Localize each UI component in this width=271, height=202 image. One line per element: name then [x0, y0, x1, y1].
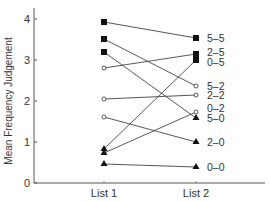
line-0-2: [104, 112, 196, 153]
y-tick-2: 2: [24, 95, 30, 107]
series-lines: [104, 22, 196, 167]
triangle-marker: [101, 160, 108, 166]
line-2-2: [104, 95, 196, 99]
chart: 0 1 2 3 4 Mean Frequency Judgement List …: [0, 0, 271, 202]
line-5-5: [104, 22, 196, 38]
label-0-0: 0–0: [207, 161, 225, 173]
triangle-marker: [193, 163, 200, 169]
line-2-0: [104, 117, 196, 142]
y-tick-labels: 0 1 2 3 4: [24, 13, 30, 189]
label-0-5: 0–5: [207, 56, 225, 68]
label-2-0: 2–0: [207, 136, 225, 148]
line-0-0: [104, 164, 196, 167]
circle-marker: [102, 97, 106, 101]
circle-marker: [102, 66, 106, 70]
x-tick-list2: List 2: [183, 187, 209, 199]
square-marker: [193, 51, 199, 57]
y-tick-0: 0: [24, 177, 30, 189]
line-5-0: [104, 52, 196, 118]
circle-marker: [194, 84, 198, 88]
line-5-2: [104, 39, 196, 86]
list1-markers: [101, 19, 108, 166]
y-tick-1: 1: [24, 136, 30, 148]
square-marker: [101, 49, 107, 55]
series-labels: 5–5 2–5 0–5 5–2 2–2 0–2 5–0 2–0 0–0: [207, 32, 225, 173]
line-0-5: [104, 60, 196, 149]
square-marker: [193, 35, 199, 41]
triangle-marker: [193, 114, 200, 120]
line-2-5: [104, 54, 196, 68]
label-2-2: 2–2: [207, 89, 225, 101]
square-marker: [101, 36, 107, 42]
y-tick-4: 4: [24, 13, 30, 25]
x-tick-list1: List 1: [91, 187, 117, 199]
y-tick-3: 3: [24, 54, 30, 66]
label-5-0: 5–0: [207, 112, 225, 124]
list2-markers: [193, 35, 200, 169]
circle-marker: [194, 93, 198, 97]
circle-marker: [194, 110, 198, 114]
square-marker: [193, 57, 199, 63]
circle-marker: [102, 115, 106, 119]
y-axis-title: Mean Frequency Judgement: [3, 37, 14, 165]
square-marker: [101, 19, 107, 25]
label-5-5: 5–5: [207, 32, 225, 44]
